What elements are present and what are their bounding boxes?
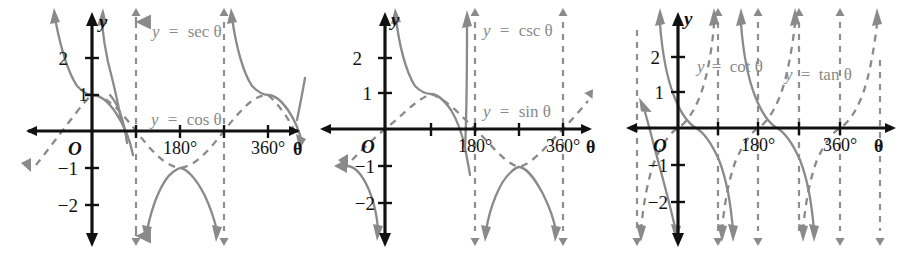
- y-tick-label-neg2: −2: [58, 195, 78, 216]
- x-tick-label-360: 360°: [823, 135, 857, 155]
- sec-label-rhs: sec θ: [188, 22, 222, 41]
- origin-label: O: [361, 136, 375, 157]
- x-axis-label: θ: [586, 137, 595, 157]
- trig-graphs-figure: 2 1 −1 −2 180° 360° O y θ y = sec θ y = …: [0, 0, 924, 253]
- tan-label-rhs: tan θ: [819, 65, 852, 84]
- x-tick-label-180: 180°: [163, 138, 197, 158]
- panel-csc-plot: 2 1 −1 −2 180° 360° O y θ y = csc θ y = …: [308, 0, 616, 253]
- sin-label-eq: =: [500, 102, 510, 121]
- y-tick-label-neg1: −1: [648, 155, 668, 176]
- cot-label-lhs: y: [695, 57, 705, 76]
- y-tick-label-2: 2: [651, 47, 661, 68]
- y-tick-label-1: 1: [655, 82, 665, 103]
- cos-label-lhs: y: [149, 110, 159, 129]
- csc-label-lhs: y: [481, 21, 491, 40]
- cos-label-eq: =: [168, 110, 178, 129]
- csc-curve-label: y = csc θ: [481, 21, 553, 40]
- x-axis-label: θ: [293, 139, 302, 159]
- csc-label-rhs: csc θ: [519, 21, 553, 40]
- x-tick-label-180: 180°: [741, 135, 775, 155]
- sec-label-lhs: y: [150, 22, 160, 41]
- y-tick-label-1: 1: [79, 84, 89, 105]
- y-tick-label-neg1: −1: [58, 158, 78, 179]
- sin-curve-label: y = sin θ: [481, 102, 551, 121]
- cot-label-rhs: cot θ: [730, 57, 763, 76]
- y-tick-label-2: 2: [353, 48, 363, 69]
- panel-cot-tan-plot: 2 1 −1 −2 180° 360° O y θ y = cot θ y = …: [616, 0, 924, 253]
- sin-label-lhs: y: [481, 102, 491, 121]
- x-tick-label-180: 180°: [458, 136, 492, 156]
- y-axis-label: y: [97, 11, 108, 32]
- origin-label: O: [68, 138, 82, 159]
- x-axis-label: θ: [874, 136, 883, 156]
- cos-label-rhs: cos θ: [187, 110, 222, 129]
- x-tick-label-360: 360°: [251, 138, 285, 158]
- y-tick-label-neg2: −2: [648, 192, 668, 213]
- csc-label-eq: =: [500, 21, 510, 40]
- y-tick-label-1: 1: [363, 83, 373, 104]
- y-tick-label-neg2: −2: [355, 193, 375, 214]
- x-tick-label-360: 360°: [546, 136, 580, 156]
- panel-csc: 2 1 −1 −2 180° 360° O y θ y = csc θ y = …: [308, 0, 616, 253]
- cot-curve-label: y = cot θ: [695, 57, 763, 76]
- panel-sec-plot: 2 1 −1 −2 180° 360° O y θ y = sec θ y = …: [0, 0, 308, 253]
- y-axis-label: y: [389, 9, 400, 30]
- origin-label: O: [653, 135, 667, 156]
- y-axis-label: y: [682, 8, 693, 29]
- sin-label-rhs: sin θ: [519, 102, 551, 121]
- tan-label-eq: =: [801, 65, 811, 84]
- panel-cot-tan: 2 1 −1 −2 180° 360° O y θ y = cot θ y = …: [616, 0, 924, 253]
- cos-curve-label: y = cos θ: [149, 110, 222, 129]
- tan-curve-label: y = tan θ: [783, 65, 852, 84]
- panel-sec: 2 1 −1 −2 180° 360° O y θ y = sec θ y = …: [0, 0, 308, 253]
- y-tick-label-2: 2: [59, 48, 69, 69]
- cot-label-eq: =: [712, 57, 722, 76]
- sec-label-eq: =: [169, 22, 179, 41]
- sec-curve-label: y = sec θ: [150, 22, 222, 41]
- tan-label-lhs: y: [783, 65, 793, 84]
- y-tick-label-neg1: −1: [355, 156, 375, 177]
